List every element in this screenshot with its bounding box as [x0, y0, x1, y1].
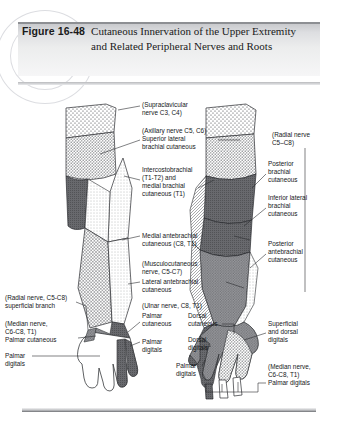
- region-palmar-digitals-median-right: [219, 380, 228, 398]
- figure-page: Figure 16-48Cutaneous Innervation of the…: [0, 0, 337, 430]
- label-median-right-line3: Palmar digitals: [268, 379, 310, 387]
- label-superficial-dorsal-line1: Superficial: [268, 320, 298, 328]
- label-musculocutaneous-line4: cutaneous: [142, 286, 172, 293]
- label-medial-antebrachial-line1: Medial antebrachial: [142, 232, 197, 239]
- label-ulnar-nerve: (Ulnar nerve, C8, T1): [142, 302, 202, 310]
- label-palmar-digitals-left-line2: digitals: [142, 346, 162, 354]
- label-posterior-antebrachial-line3: cutaneous: [268, 256, 298, 263]
- label-median-left-line3: Palmar cutaneous: [5, 336, 57, 343]
- region-radial-superficial-anterior: [84, 328, 96, 342]
- label-ulnar-palmar-cutaneous: Palmar cutaneous: [128, 312, 172, 332]
- label-radial-superficial-line1: (Radial nerve, C5-C8): [5, 294, 67, 302]
- label-superficial-dorsal-line2: and dorsal: [268, 328, 298, 335]
- label-musculocutaneous-line1: (Musculocutaneous: [142, 260, 197, 268]
- label-palmar-digitals-right-line2: digitals: [176, 370, 196, 378]
- label-inferior-lateral-brachial-line1: Inferior lateral: [268, 194, 307, 201]
- label-superficial-dorsal-line3: digitals: [268, 336, 288, 344]
- footer-rule: [22, 408, 316, 412]
- label-posterior-antebrachial-line1: Posterior: [268, 240, 294, 247]
- region-palmar-digitals-ulnar-2: [117, 339, 127, 387]
- label-musculocutaneous-line3: Lateral antebrachial: [142, 278, 198, 285]
- label-axillary-line3: brachial cutaneous: [142, 143, 196, 150]
- label-radial-right-line2: C5–C8): [272, 139, 294, 147]
- label-palmar-digitals-left-line1: Palmar: [142, 338, 163, 345]
- label-dorsal-digitals-right-line1: Dorsal: [188, 336, 206, 343]
- label-supraclavicular-line2: nerve C3, C4): [142, 109, 182, 117]
- label-median-right-line1: (Median nerve,: [268, 363, 311, 371]
- label-radial-right-line1: (Radial nerve: [272, 131, 310, 139]
- region-medial-antebrachial-anterior: [78, 228, 112, 328]
- region-palmar-digitals-median-right-2: [233, 377, 242, 396]
- label-dorsal-cutaneous-line1: Dorsal: [188, 312, 206, 319]
- label-musculocutaneous-line2: nerve, C5-C7): [142, 268, 182, 276]
- label-axillary-line1: (Axillary nerve C5, C6): [142, 127, 206, 135]
- label-posterior-brachial-line2: brachial: [268, 168, 290, 175]
- label-inferior-lateral-brachial-line3: cutaneous: [268, 210, 298, 217]
- label-supraclavicular-line1: (Supraclavicular: [142, 101, 189, 109]
- label-medial-antebrachial-line2: cutaneous (C8, T1): [142, 240, 197, 248]
- label-median-left-line1: (Median nerve,: [5, 320, 48, 328]
- label-palmar-cutaneous-line2: cutaneous: [142, 320, 172, 327]
- region-axillary-posterior: [206, 134, 256, 180]
- label-palmar-digitals-median-left-line2: digitals: [5, 360, 25, 368]
- caption-divider-rule: [18, 82, 320, 85]
- region-inferior-lateral-brachial-cutaneous: [200, 218, 252, 257]
- region-lateral-antebrachial-anterior: [108, 238, 132, 324]
- label-palmar-digitals-right-line1: Palmar: [176, 362, 197, 369]
- figure-number: Figure 16-48: [22, 24, 85, 37]
- figure-caption: Figure 16-48Cutaneous Innervation of the…: [22, 24, 322, 53]
- label-intercostobrachial-line4: cutaneous (T1): [142, 190, 185, 198]
- posterior-limb-figure: [189, 104, 259, 399]
- label-supraclavicular: (Supraclavicular nerve C3, C4): [118, 101, 189, 117]
- anatomical-illustration: (Supraclavicular nerve C3, C4) (Axillary…: [0, 92, 337, 404]
- label-dorsal-cutaneous-line2: cutaneous: [188, 320, 218, 327]
- label-intercostobrachial-line2: (T1-T2) and: [142, 174, 176, 182]
- label-axillary-line2: Superior lateral: [142, 135, 185, 143]
- label-palmar-digitals-median-left-line1: Palmar: [5, 352, 26, 359]
- anterior-limb-figure: [66, 104, 138, 391]
- label-posterior-brachial: Posterior brachial cutaneous: [252, 160, 298, 188]
- label-median-left-line2: C6-C8, T1): [5, 328, 37, 336]
- label-posterior-antebrachial: Posterior antebrachial cutaneous: [250, 240, 303, 268]
- region-intercostobrachial-anterior: [66, 176, 88, 230]
- label-intercostobrachial-line3: medial brachial: [142, 182, 185, 189]
- label-intercostobrachial-line1: Intercostobrachial: [142, 166, 192, 173]
- label-posterior-antebrachial-line2: antebrachial: [268, 248, 303, 255]
- region-supraclavicular-posterior: [206, 104, 256, 138]
- label-palmar-cutaneous-line1: Palmar: [142, 312, 163, 319]
- label-radial-superficial-line2: superficial branch: [5, 302, 56, 310]
- region-axillary-anterior: [66, 132, 116, 180]
- label-palmar-digitals-left: Palmar digitals: [130, 338, 163, 354]
- figure-title: Cutaneous Innervation of the Upper Extre…: [91, 24, 305, 53]
- label-median-right-line2: C6-C8, T1): [268, 371, 300, 379]
- label-ulnar-nerve: (Ulnar nerve, C8, T1): [142, 302, 202, 310]
- label-posterior-brachial-line3: cutaneous: [268, 176, 298, 183]
- label-posterior-brachial-line1: Posterior: [268, 160, 294, 167]
- label-inferior-lateral-brachial-line2: brachial: [268, 202, 290, 209]
